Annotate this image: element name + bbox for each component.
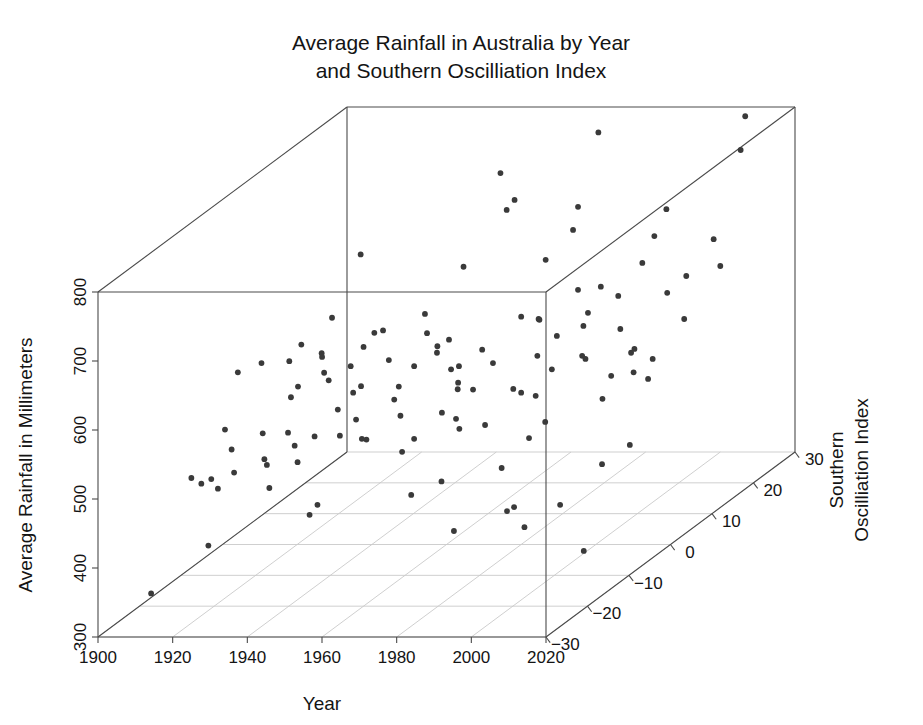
scatter-point bbox=[208, 476, 214, 482]
scatter-point bbox=[498, 170, 504, 176]
scatter-point bbox=[456, 426, 462, 432]
scatter-point bbox=[575, 204, 581, 210]
scatter-point bbox=[522, 524, 528, 530]
scatter-point bbox=[504, 207, 510, 213]
scatter-point bbox=[608, 373, 614, 379]
z-tick-mark bbox=[546, 637, 550, 643]
scatter-point bbox=[386, 357, 392, 363]
scatter-point bbox=[504, 508, 510, 514]
scatter-point bbox=[595, 130, 601, 136]
scatter-point bbox=[557, 502, 563, 508]
scatter-point bbox=[215, 486, 221, 492]
scatter-point bbox=[295, 384, 301, 390]
y-tick-label: 600 bbox=[71, 416, 90, 444]
scatter-point bbox=[446, 337, 452, 343]
y-tick-label: 300 bbox=[71, 623, 90, 651]
scatter-point bbox=[399, 449, 405, 455]
scatter-point bbox=[229, 447, 235, 453]
scatter-point bbox=[650, 356, 656, 362]
scatter-point bbox=[742, 113, 748, 119]
scatter-point bbox=[581, 323, 587, 329]
scatter-point bbox=[554, 333, 560, 339]
scatter-point bbox=[359, 436, 365, 442]
scatter-point bbox=[337, 433, 343, 439]
scatter-point bbox=[455, 380, 461, 386]
scatter-point bbox=[439, 410, 445, 416]
y-tick-label: 800 bbox=[71, 278, 90, 306]
scatter-point bbox=[615, 293, 621, 299]
scatter-point bbox=[411, 436, 417, 442]
scatter-point bbox=[631, 369, 637, 375]
scatter-point bbox=[536, 316, 542, 322]
scatter-point bbox=[148, 591, 154, 597]
scatter-point bbox=[329, 315, 335, 321]
scatter-point bbox=[335, 407, 341, 413]
scatter-point bbox=[451, 528, 457, 534]
scatter-point bbox=[292, 443, 298, 449]
scatter-point bbox=[353, 417, 359, 423]
scatter-point bbox=[479, 347, 485, 353]
scatter-point bbox=[266, 485, 272, 491]
chart-title-line-1: Average Rainfall in Australia by Year bbox=[292, 31, 630, 54]
scatter-point bbox=[358, 252, 364, 258]
scatter-point bbox=[288, 394, 294, 400]
scatter-point bbox=[315, 502, 321, 508]
scatter-point bbox=[599, 461, 605, 467]
z-axis-title-line-2: Oscilliation Index bbox=[851, 398, 872, 542]
scatter-point bbox=[348, 363, 354, 369]
z-tick-mark bbox=[629, 575, 633, 581]
scatter-point bbox=[490, 360, 496, 366]
scatter-point bbox=[526, 435, 532, 441]
scatter-point bbox=[598, 284, 604, 290]
z-tick-mark bbox=[712, 514, 716, 520]
scatter-point bbox=[398, 413, 404, 419]
x-tick-label: 1980 bbox=[378, 648, 416, 667]
x-tick-label: 2000 bbox=[452, 648, 490, 667]
scatter-point bbox=[461, 264, 467, 270]
scatter-point bbox=[651, 233, 657, 239]
scatter-point bbox=[639, 260, 645, 266]
scatter-point bbox=[439, 479, 445, 485]
z-tick-label: −20 bbox=[592, 604, 621, 623]
scatter-point bbox=[235, 369, 241, 375]
scatter-point bbox=[549, 366, 555, 372]
scatter-point bbox=[319, 350, 325, 356]
scatter-point bbox=[424, 330, 430, 336]
scatter-point bbox=[321, 370, 327, 376]
scatter-point bbox=[259, 360, 265, 366]
y-tick-label: 400 bbox=[71, 554, 90, 582]
scatter-point bbox=[632, 346, 638, 352]
z-tick-label: 30 bbox=[805, 450, 824, 469]
scatter-point bbox=[231, 470, 237, 476]
x-tick-label: 1960 bbox=[303, 648, 341, 667]
scatter-point bbox=[570, 227, 576, 233]
scatter-point bbox=[264, 462, 270, 468]
scatter-point bbox=[518, 390, 524, 396]
chart-title-line-2: and Southern Oscilliation Index bbox=[316, 59, 607, 82]
scatter-point bbox=[583, 356, 589, 362]
scatter-point bbox=[434, 350, 440, 356]
scatter-point bbox=[482, 422, 488, 428]
scatter-point bbox=[542, 419, 548, 425]
scatter-point bbox=[585, 310, 591, 316]
x-tick-label: 1940 bbox=[228, 648, 266, 667]
scatter-point bbox=[683, 273, 689, 279]
scatter-point bbox=[260, 430, 266, 436]
z-tick-label: −30 bbox=[551, 635, 580, 654]
y-axis-title: Average Rainfall in Millimeters bbox=[15, 337, 36, 592]
scatter-point bbox=[434, 343, 440, 349]
scatter-point bbox=[581, 548, 587, 554]
scatter-point bbox=[411, 363, 417, 369]
scatter-point bbox=[717, 263, 723, 269]
z-tick-label: 10 bbox=[722, 512, 741, 531]
scatter-point bbox=[188, 475, 194, 481]
scatter-point bbox=[510, 386, 516, 392]
scatter-point bbox=[499, 465, 505, 471]
scatter-point bbox=[285, 430, 291, 436]
scatter-point bbox=[512, 197, 518, 203]
scatter-point bbox=[575, 287, 581, 293]
z-tick-mark bbox=[588, 606, 592, 612]
scatter-point bbox=[198, 481, 204, 487]
scatter-point bbox=[600, 396, 606, 402]
scatter-point bbox=[664, 290, 670, 296]
